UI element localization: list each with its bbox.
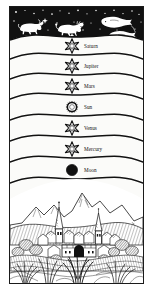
town-houses (38, 230, 120, 245)
sphere-arc-mars (10, 93, 143, 99)
sphere-arc-jupiter (10, 73, 143, 79)
crescent-moon-icon (66, 164, 79, 175)
sphere-item-moon[interactable]: Moon (66, 164, 97, 175)
six-pointed-star-icon (65, 121, 78, 135)
sphere-label-jupiter: Jupiter (84, 63, 99, 69)
landscape-scene (10, 177, 143, 283)
sphere-label-moon: Moon (84, 167, 97, 173)
sphere-arc-saturn (10, 53, 143, 59)
sphere-item-venus[interactable]: Venus (65, 121, 97, 135)
sphere-label-saturn: Saturn (84, 43, 98, 49)
sphere-label-mercury: Mercury (84, 146, 103, 152)
woodcut-illustration: Saturn Jupiter Mars (0, 0, 153, 294)
sphere-label-sun: Sun (84, 104, 93, 110)
radiant-sun-icon (66, 101, 79, 114)
sphere-arc-sun (10, 114, 143, 120)
sphere-item-mercury[interactable]: Mercury (65, 142, 102, 156)
six-pointed-star-icon (65, 142, 78, 156)
plate-canvas: Saturn Jupiter Mars (10, 7, 143, 283)
engraving-plate: Saturn Jupiter Mars (9, 6, 144, 284)
sphere-label-mars: Mars (84, 83, 95, 89)
six-pointed-star-icon (65, 39, 78, 53)
sphere-label-venus: Venus (84, 125, 97, 131)
sphere-arc-mercury (10, 156, 143, 162)
six-pointed-star-icon (65, 79, 78, 93)
sphere-item-mars[interactable]: Mars (65, 79, 94, 93)
sphere-item-sun[interactable]: Sun (66, 101, 93, 114)
sphere-item-saturn[interactable]: Saturn (65, 39, 98, 53)
zodiac-band (10, 7, 143, 41)
sphere-item-jupiter[interactable]: Jupiter (65, 59, 98, 73)
town-gate (62, 245, 96, 257)
sphere-arc-venus (10, 135, 143, 141)
six-pointed-star-icon (65, 59, 78, 73)
